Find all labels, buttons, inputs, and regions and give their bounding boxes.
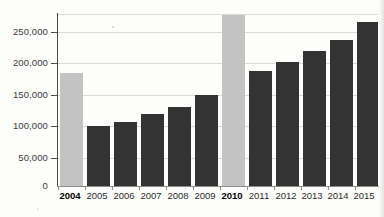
page-edge-shadow [379, 0, 384, 217]
y-tick-250000 [51, 32, 58, 33]
y-tick-150000 [51, 95, 58, 96]
bar-chart: 250,000 200,000 150,000 100,000 50,000 0… [0, 0, 384, 217]
y-tick-label-50000: 50,000 [18, 152, 48, 163]
bar-2013 [303, 51, 326, 186]
y-tick-label-100000: 100,000 [13, 120, 48, 131]
bar-2009 [195, 95, 218, 186]
y-tick-label-200000: 200,000 [13, 57, 48, 68]
bar-2006 [114, 122, 137, 186]
bar-2004 [60, 73, 83, 186]
bar-2012 [276, 62, 299, 186]
y-tick-200000 [51, 63, 58, 64]
bar-2007 [141, 114, 164, 186]
bar-2014 [330, 40, 353, 186]
y-tick-label-150000: 150,000 [13, 89, 48, 100]
bar-2015 [357, 22, 378, 186]
y-tick-50000 [51, 158, 58, 159]
y-tick-label-250000: 250,000 [13, 26, 48, 37]
bar-2005 [87, 126, 110, 186]
gridline-top [58, 14, 378, 15]
bar-2011 [249, 71, 272, 186]
scan-speck-1 [112, 26, 114, 28]
x-axis-label-2015: 2015 [348, 190, 380, 201]
y-tick-label-0: 0 [43, 180, 48, 191]
scan-speck-3 [37, 208, 39, 210]
bar-2010 [222, 15, 245, 186]
x-axis-line [57, 186, 379, 187]
y-tick-100000 [51, 126, 58, 127]
plot-area [58, 14, 378, 186]
bar-2008 [168, 107, 191, 186]
gridline-250000 [58, 32, 378, 33]
scan-speck-2 [21, 57, 23, 59]
